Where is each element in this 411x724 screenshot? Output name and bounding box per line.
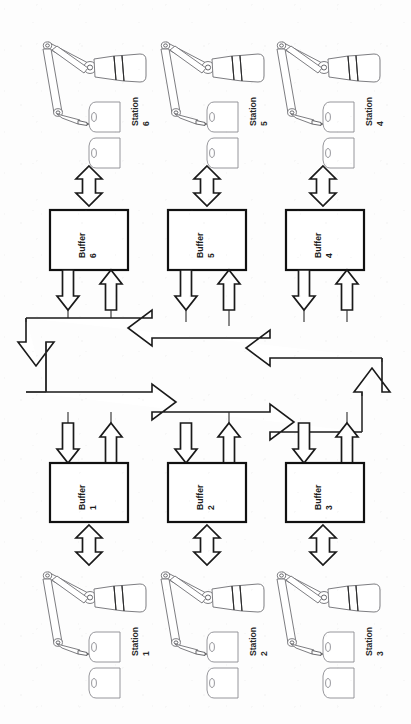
- connector-buffer2-station2: [194, 525, 220, 565]
- connector-buffer6-to-loop: [57, 270, 79, 310]
- connector-buffer3-station3: [310, 525, 336, 565]
- station-group-6[interactable]: Station 6: [43, 42, 151, 168]
- buffer-label-word: Buffer: [77, 232, 87, 258]
- buffer-label-number: 2: [206, 505, 216, 510]
- buffer-box-2[interactable]: Buffer 2: [168, 463, 246, 522]
- diagram-canvas: Station 6 Station 5 Station 4 Buffer 6: [0, 0, 411, 724]
- connector-station5-buffer5: [194, 166, 220, 206]
- station-group-3[interactable]: Station 3: [277, 572, 385, 698]
- buffer-box-1[interactable]: Buffer 1: [50, 463, 128, 522]
- station-group-1[interactable]: Station 1: [43, 572, 151, 698]
- station-label-number: 3: [375, 651, 385, 656]
- buffer-label-word: Buffer: [195, 484, 205, 510]
- station-label-word: Station: [364, 627, 374, 656]
- station-group-4[interactable]: Station 4: [277, 42, 385, 168]
- connector-buffer4-to-loop: [293, 270, 315, 310]
- station-label-number: 2: [259, 651, 269, 656]
- buffer-label-number: 5: [206, 253, 216, 258]
- connector-buffer1-to-loop: [100, 423, 122, 463]
- station-group-5[interactable]: Station 5: [161, 42, 269, 168]
- connector-loop-to-buffer1: [57, 423, 79, 463]
- connector-station4-buffer4: [310, 166, 336, 206]
- station-label-number: 6: [141, 121, 151, 126]
- buffer-label-number: 1: [88, 505, 98, 510]
- connector-loop-to-buffer6: [100, 270, 122, 310]
- station-label-number: 1: [141, 651, 151, 656]
- buffer-box-4[interactable]: Buffer 4: [286, 210, 364, 270]
- station-label-word: Station: [364, 97, 374, 126]
- buffer-box-5[interactable]: Buffer 5: [168, 210, 246, 270]
- buffer-label-number: 3: [324, 505, 334, 510]
- connector-loop-to-buffer5: [218, 270, 240, 310]
- connector-loop-to-buffer2: [175, 423, 197, 463]
- connector-buffer2-to-loop: [218, 423, 240, 463]
- connector-buffer3-to-loop: [336, 423, 358, 463]
- connector-buffer5-to-loop: [175, 270, 197, 310]
- buffer-label-number: 6: [88, 253, 98, 258]
- station-label-word: Station: [130, 97, 140, 126]
- buffer-label-number: 4: [324, 253, 334, 258]
- central-transport-loop[interactable]: [18, 310, 390, 440]
- station-label-word: Station: [130, 627, 140, 656]
- connector-station6-buffer6: [76, 166, 102, 206]
- station-label-number: 4: [375, 121, 385, 126]
- buffer-box-6[interactable]: Buffer 6: [50, 210, 128, 270]
- buffer-label-word: Buffer: [313, 232, 323, 258]
- station-group-2[interactable]: Station 2: [161, 572, 269, 698]
- station-label-number: 5: [259, 121, 269, 126]
- buffer-label-word: Buffer: [77, 484, 87, 510]
- connector-loop-to-buffer4: [336, 270, 358, 310]
- buffer-box-3[interactable]: Buffer 3: [286, 463, 364, 522]
- buffer-label-word: Buffer: [313, 484, 323, 510]
- connector-buffer1-station1: [76, 525, 102, 565]
- buffer-label-word: Buffer: [195, 232, 205, 258]
- station-label-word: Station: [248, 97, 258, 126]
- station-label-word: Station: [248, 627, 258, 656]
